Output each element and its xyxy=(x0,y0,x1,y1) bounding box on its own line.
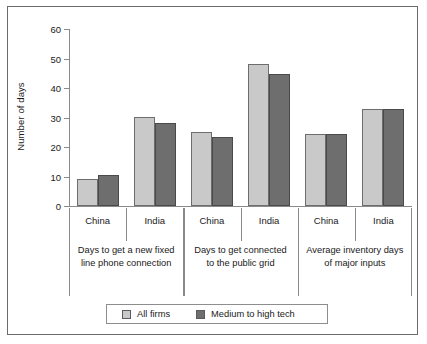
country-label: China xyxy=(298,215,355,226)
bar-medium-to-high-tech xyxy=(98,175,119,206)
bar-medium-to-high-tech xyxy=(155,123,176,206)
category-title: Average inventory daysof major inputs xyxy=(298,244,412,269)
category-title-line: Days to get a new fixed xyxy=(69,244,183,257)
legend-label: All firms xyxy=(137,309,170,319)
bar-all-firms xyxy=(248,64,269,206)
bar-group xyxy=(134,28,176,206)
legend-swatch-dark-icon xyxy=(196,310,205,319)
country-label: China xyxy=(183,215,240,226)
bar-medium-to-high-tech xyxy=(383,109,404,206)
bar-medium-to-high-tech xyxy=(326,134,347,206)
category-title-line: Days to get connected xyxy=(183,244,297,257)
bar-group xyxy=(191,28,233,206)
legend-swatch-light-icon xyxy=(122,310,131,319)
y-tick-mark xyxy=(64,118,70,119)
bar-group xyxy=(362,28,404,206)
category-title: Days to get a new fixedline phone connec… xyxy=(69,244,183,269)
legend-item-all-firms: All firms xyxy=(122,309,170,319)
y-tick-mark xyxy=(64,88,70,89)
bar-all-firms xyxy=(134,117,155,206)
category-title-line: to the public grid xyxy=(183,257,297,270)
bar-group xyxy=(77,28,119,206)
chart-legend: All firms Medium to high tech xyxy=(106,304,328,324)
y-tick-mark xyxy=(64,59,70,60)
country-separator xyxy=(126,208,127,241)
bar-group xyxy=(248,28,290,206)
y-tick-mark xyxy=(64,29,70,30)
category-title: Days to get connectedto the public grid xyxy=(183,244,297,269)
country-label: China xyxy=(69,215,126,226)
bar-all-firms xyxy=(77,179,98,206)
chart-figure: Number of days 0102030405060 ChinaIndiaC… xyxy=(7,6,418,335)
country-label: India xyxy=(126,215,183,226)
y-tick-mark xyxy=(64,206,70,207)
bar-all-firms xyxy=(305,134,326,206)
category-title-line: Average inventory days xyxy=(298,244,412,257)
bar-all-firms xyxy=(191,132,212,206)
y-tick-label: 20 xyxy=(50,142,61,153)
y-tick-label: 50 xyxy=(50,53,61,64)
bar-group xyxy=(305,28,347,206)
y-tick-label: 30 xyxy=(50,112,61,123)
bar-all-firms xyxy=(362,109,383,206)
category-axis: ChinaIndiaChinaIndiaChinaIndiaDays to ge… xyxy=(69,208,412,296)
legend-item-medium-to-high-tech: Medium to high tech xyxy=(196,309,295,319)
y-tick-label: 0 xyxy=(56,201,61,212)
plot-area: 0102030405060 xyxy=(69,25,412,209)
country-separator xyxy=(241,208,242,241)
y-axis-label: Number of days xyxy=(15,69,26,165)
y-tick-mark xyxy=(64,177,70,178)
bar-medium-to-high-tech xyxy=(269,74,290,206)
category-title-line: line phone connection xyxy=(69,257,183,270)
category-title-line: of major inputs xyxy=(298,257,412,270)
y-tick-label: 60 xyxy=(50,24,61,35)
bar-medium-to-high-tech xyxy=(212,137,233,206)
y-tick-label: 40 xyxy=(50,83,61,94)
country-separator xyxy=(355,208,356,241)
country-label: India xyxy=(241,215,298,226)
country-label: India xyxy=(355,215,412,226)
legend-label: Medium to high tech xyxy=(211,309,295,319)
y-tick-mark xyxy=(64,147,70,148)
y-tick-label: 10 xyxy=(50,171,61,182)
